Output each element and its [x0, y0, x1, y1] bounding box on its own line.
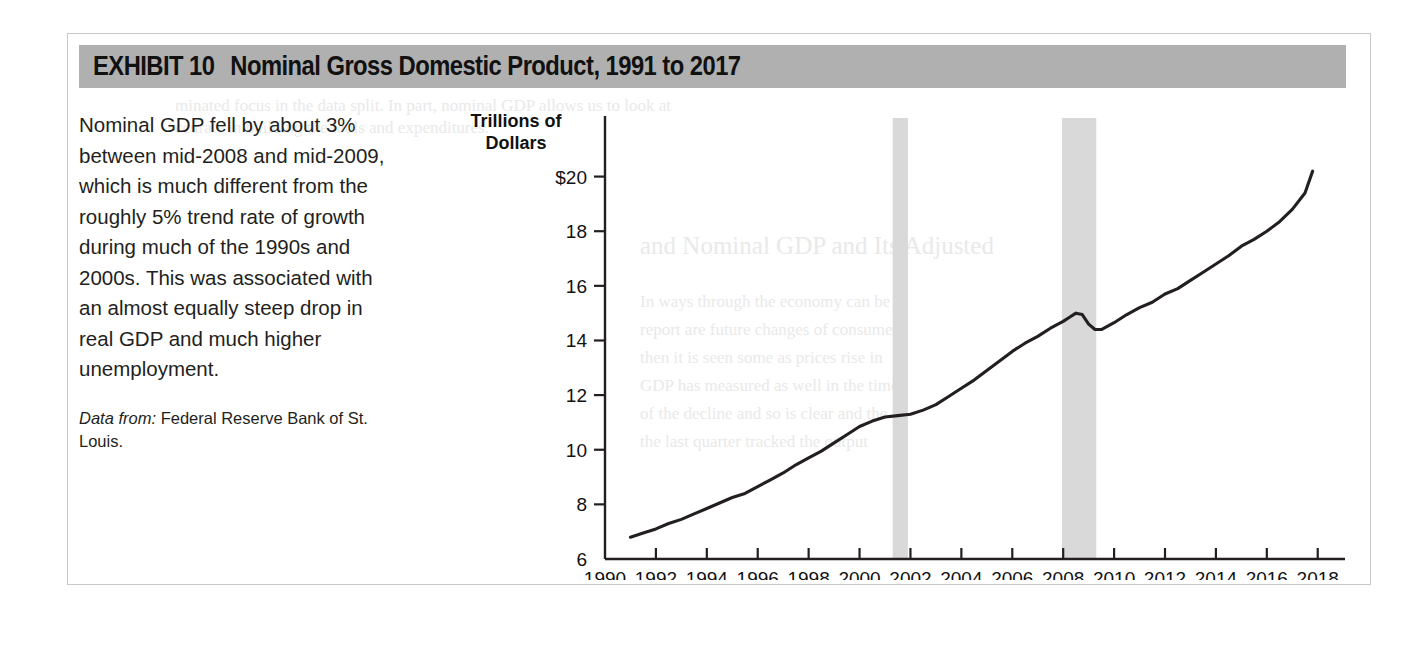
chart-plot-area: 681012141618$201990199219941996199820002…	[398, 110, 1348, 580]
exhibit-number: EXHIBIT 10	[93, 51, 214, 81]
exhibit-title-text: Nominal Gross Domestic Product, 1991 to …	[230, 51, 740, 81]
x-axis-tick-label: 2010	[1093, 568, 1135, 580]
y-axis-tick-label: 14	[566, 330, 588, 351]
y-axis-tick-label: $20	[555, 167, 587, 188]
y-axis-tick-label: 16	[566, 276, 587, 297]
x-axis-tick-label: 2000	[838, 568, 880, 580]
y-axis-tick-label: 10	[566, 440, 587, 461]
exhibit-title: EXHIBIT 10Nominal Gross Domestic Product…	[93, 51, 741, 82]
y-axis-tick-label: 12	[566, 385, 587, 406]
x-axis-tick-label: 2014	[1195, 568, 1238, 580]
recession-band	[1062, 118, 1096, 559]
caption-source: Data from: Federal Reserve Bank of St. L…	[79, 407, 397, 453]
x-axis-tick-label: 2018	[1297, 568, 1339, 580]
x-axis-tick-label: 2006	[991, 568, 1033, 580]
source-label: Data from:	[79, 409, 156, 427]
x-axis-tick-label: 2012	[1144, 568, 1186, 580]
x-axis-tick-label: 1992	[635, 568, 677, 580]
x-axis-tick-label: 1990	[584, 568, 626, 580]
exhibit-title-bar: EXHIBIT 10Nominal Gross Domestic Product…	[79, 45, 1346, 88]
x-axis-tick-label: 2004	[940, 568, 983, 580]
gdp-chart: Trillions of Dollars 681012141618$201990…	[398, 110, 1348, 580]
x-axis-tick-label: 1996	[737, 568, 779, 580]
y-axis-tick-label: 18	[566, 221, 587, 242]
gdp-line-series	[630, 171, 1312, 537]
caption-paragraph: Nominal GDP fell by about 3% between mid…	[79, 110, 397, 385]
x-axis-tick-label: 1998	[787, 568, 829, 580]
x-axis-tick-label: 2008	[1042, 568, 1084, 580]
y-axis-tick-label: 8	[576, 494, 587, 515]
x-axis-tick-label: 2002	[889, 568, 931, 580]
x-axis-tick-label: 1994	[686, 568, 729, 580]
y-axis-tick-label: 6	[576, 549, 587, 570]
x-axis-tick-label: 2016	[1246, 568, 1288, 580]
recession-band	[893, 118, 908, 559]
exhibit-box: EXHIBIT 10Nominal Gross Domestic Product…	[67, 33, 1371, 585]
caption-column: Nominal GDP fell by about 3% between mid…	[79, 110, 397, 453]
